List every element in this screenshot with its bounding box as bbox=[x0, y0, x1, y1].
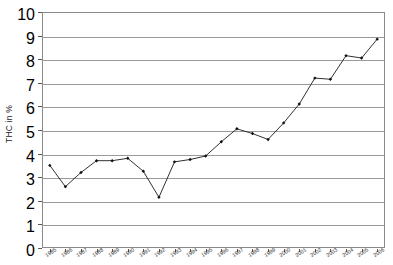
line-chart: THC in % 012345678910 198519861987198819… bbox=[0, 0, 393, 265]
series-line-thc bbox=[50, 39, 377, 197]
data-series-layer bbox=[0, 0, 393, 265]
data-point bbox=[188, 158, 191, 161]
series-points-thc bbox=[48, 37, 379, 199]
data-point bbox=[110, 159, 113, 162]
data-point bbox=[173, 160, 176, 163]
data-point bbox=[251, 132, 254, 135]
